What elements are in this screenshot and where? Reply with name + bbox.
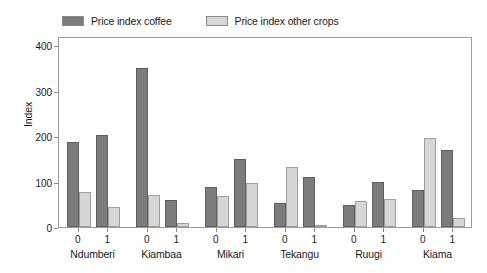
legend-entry: Price index other crops bbox=[206, 16, 339, 27]
legend-label: Price index coffee bbox=[91, 16, 172, 27]
x-axis-sub-label: 1 bbox=[381, 234, 387, 245]
bar-price-index-other-crops bbox=[217, 196, 229, 227]
bar-price-index-coffee bbox=[165, 200, 177, 227]
x-axis-tick-mark bbox=[245, 228, 246, 232]
x-axis-tick-mark bbox=[176, 228, 177, 232]
y-axis-tick-label: 0 bbox=[0, 223, 52, 234]
y-axis-tick-label: 400 bbox=[0, 41, 52, 52]
bar-price-index-other-crops bbox=[108, 207, 120, 227]
x-axis-tick-mark bbox=[285, 228, 286, 232]
x-axis-tick-mark bbox=[452, 228, 453, 232]
bar-price-index-other-crops bbox=[177, 223, 189, 227]
bar-price-index-other-crops bbox=[246, 183, 258, 227]
bar-price-index-other-crops bbox=[355, 201, 367, 227]
x-axis-tick-mark bbox=[107, 228, 108, 232]
x-axis-tick-mark bbox=[354, 228, 355, 232]
bar-price-index-coffee bbox=[343, 205, 355, 227]
x-axis-sub-label: 1 bbox=[174, 234, 180, 245]
bar-price-index-other-crops bbox=[384, 199, 396, 227]
legend-swatch-icon bbox=[206, 16, 228, 26]
x-axis-sub-label: 1 bbox=[450, 234, 456, 245]
bar-price-index-other-crops bbox=[453, 218, 465, 227]
bar-price-index-coffee bbox=[96, 135, 108, 227]
y-axis-tick-mark bbox=[54, 183, 58, 184]
bar-price-index-coffee bbox=[441, 150, 453, 227]
y-axis-tick-mark bbox=[54, 228, 58, 229]
x-axis-group-label: Kiambaa bbox=[141, 248, 181, 260]
x-axis-group-label: Mikari bbox=[217, 248, 244, 260]
bar-price-index-coffee bbox=[372, 182, 384, 227]
bar-price-index-coffee bbox=[67, 142, 79, 227]
bar-price-index-other-crops bbox=[148, 195, 160, 227]
bar-price-index-other-crops bbox=[79, 192, 91, 227]
bar-price-index-coffee bbox=[303, 177, 315, 227]
legend-label: Price index other crops bbox=[235, 16, 339, 27]
x-axis-group-label: Tekangu bbox=[280, 248, 319, 260]
bar-price-index-coffee bbox=[412, 190, 424, 227]
bar-price-index-coffee bbox=[205, 187, 217, 227]
bar-price-index-coffee bbox=[136, 68, 148, 227]
y-axis-tick-label: 200 bbox=[0, 132, 52, 143]
bar-price-index-other-crops bbox=[424, 138, 436, 227]
x-axis-tick-mark bbox=[216, 228, 217, 232]
x-axis-tick-mark bbox=[423, 228, 424, 232]
y-axis-tick-mark bbox=[54, 137, 58, 138]
x-axis-sub-label: 0 bbox=[75, 234, 81, 245]
x-axis-sub-label: 1 bbox=[243, 234, 249, 245]
bar-price-index-other-crops bbox=[286, 167, 298, 227]
bar-chart: Price index coffeePrice index other crop… bbox=[0, 0, 487, 273]
x-axis-sub-label: 0 bbox=[282, 234, 288, 245]
bar-price-index-coffee bbox=[274, 203, 286, 227]
chart-legend: Price index coffeePrice index other crop… bbox=[62, 12, 339, 30]
x-axis-sub-label: 0 bbox=[420, 234, 426, 245]
legend-swatch-icon bbox=[62, 16, 84, 26]
x-axis-sub-label: 1 bbox=[312, 234, 318, 245]
x-axis-sub-label: 1 bbox=[105, 234, 111, 245]
y-axis-title: Index bbox=[22, 113, 34, 127]
y-axis-tick-label: 100 bbox=[0, 177, 52, 188]
x-axis-sub-label: 0 bbox=[351, 234, 357, 245]
y-axis-tick-mark bbox=[54, 92, 58, 93]
x-axis-tick-mark bbox=[147, 228, 148, 232]
y-axis-tick-mark bbox=[54, 46, 58, 47]
bar-price-index-other-crops bbox=[315, 225, 327, 227]
plot-area bbox=[58, 37, 472, 228]
legend-entry: Price index coffee bbox=[62, 16, 172, 27]
x-axis-group-label: Ruugi bbox=[355, 248, 382, 260]
x-axis-sub-label: 0 bbox=[144, 234, 150, 245]
x-axis-tick-mark bbox=[314, 228, 315, 232]
bar-price-index-coffee bbox=[234, 159, 246, 227]
y-axis-tick-label: 300 bbox=[0, 86, 52, 97]
x-axis-group-label: Ndumberi bbox=[70, 248, 114, 260]
x-axis-group-label: Kiama bbox=[423, 248, 452, 260]
x-axis-tick-mark bbox=[78, 228, 79, 232]
x-axis-sub-label: 0 bbox=[213, 234, 219, 245]
x-axis-tick-mark bbox=[383, 228, 384, 232]
